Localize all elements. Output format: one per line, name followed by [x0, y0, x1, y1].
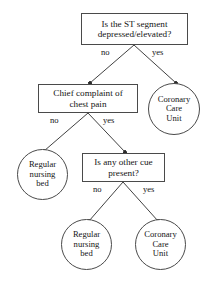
node-chief-complaint-label: Chief complaint of chest pain — [39, 88, 137, 109]
node-coronary-care-unit-top: Coronary Care Unit — [148, 83, 200, 135]
node-coronary-care-unit-top-label: Coronary Care Unit — [149, 95, 199, 124]
edge-line-e1 — [90, 45, 134, 83]
node-regular-nursing-bed-bottom-label: Regular nursing bed — [62, 230, 111, 259]
edge-label-e4: yes — [103, 115, 114, 125]
edge-lines — [44, 45, 176, 221]
edge-label-e3: no — [50, 115, 59, 125]
edge-label-e2: yes — [152, 47, 163, 57]
edge-label-e5: no — [93, 184, 102, 194]
node-other-cue: Is any other cue present? — [82, 153, 165, 182]
decision-tree-diagram: Is the ST segment depressed/elevated? Ch… — [0, 0, 210, 288]
edge-label-e6: yes — [143, 184, 154, 194]
node-st-segment: Is the ST segment depressed/elevated? — [81, 13, 188, 45]
edge-label-e1: no — [101, 47, 110, 57]
node-coronary-care-unit-bottom-label: Coronary Care Unit — [136, 230, 185, 259]
node-chief-complaint: Chief complaint of chest pain — [38, 84, 138, 113]
node-regular-nursing-bed-bottom: Regular nursing bed — [61, 219, 112, 270]
node-coronary-care-unit-bottom: Coronary Care Unit — [135, 219, 186, 270]
node-other-cue-label: Is any other cue present? — [83, 157, 164, 178]
node-regular-nursing-bed-mid: Regular nursing bed — [17, 149, 68, 200]
node-st-segment-label: Is the ST segment depressed/elevated? — [82, 19, 187, 40]
node-regular-nursing-bed-mid-label: Regular nursing bed — [18, 160, 67, 189]
